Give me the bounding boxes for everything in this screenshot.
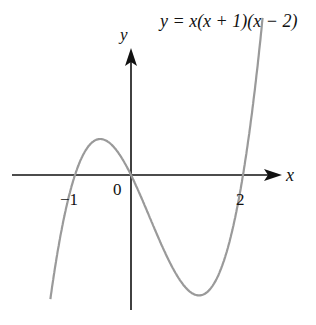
equation-label: y = x(x + 1)(x − 2) (160, 12, 297, 30)
cubic-curve (50, 18, 262, 299)
y-axis-label: y (120, 26, 128, 43)
x-tick-label-neg1: −1 (60, 191, 78, 208)
graph-canvas (0, 0, 316, 325)
x-axis-label: x (286, 166, 294, 184)
origin-label: 0 (113, 181, 122, 198)
x-tick-label-2: 2 (236, 191, 245, 208)
